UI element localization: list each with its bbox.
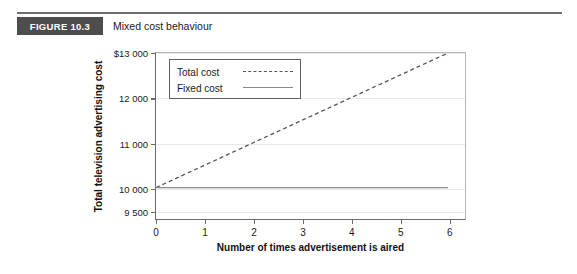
chart: Total television advertising cost 9 5001… (0, 38, 577, 274)
y-axis-tick-label: 10 000 (119, 184, 148, 195)
y-axis-title-text: Total television advertising cost (94, 60, 105, 212)
x-axis-tick (450, 219, 451, 224)
y-axis-title: Total television advertising cost (92, 52, 106, 220)
y-axis-tick-label: $13 000 (114, 48, 148, 59)
x-axis-tick (205, 219, 206, 224)
x-axis-tick-label: 0 (153, 227, 159, 238)
x-axis-tick-label: 1 (202, 227, 208, 238)
legend-item-label: Fixed cost (177, 83, 243, 94)
plot-area: 9 50010 00011 00012 000$13 000 0123456 T… (155, 52, 466, 220)
legend-item: Total cost (177, 64, 293, 80)
x-axis-tick (352, 219, 353, 224)
y-axis-tick-label: 12 000 (119, 93, 148, 104)
y-axis-tick-label: 11 000 (120, 138, 148, 149)
x-axis-tick-label: 6 (447, 227, 453, 238)
chart-legend: Total costFixed cost (169, 59, 301, 99)
x-axis-title: Number of times advertisement is aired (155, 242, 466, 253)
x-axis-tick (401, 219, 402, 224)
legend-item: Fixed cost (177, 80, 293, 96)
x-axis-tick-label: 4 (349, 227, 355, 238)
legend-item-label: Total cost (177, 67, 243, 78)
x-axis-tick (303, 219, 304, 224)
y-axis-tick-label: 9 500 (124, 206, 148, 217)
x-axis-tick-label: 2 (251, 227, 257, 238)
x-axis-tick (156, 219, 157, 224)
figure-header: FIGURE 10.3 Mixed cost behaviour (17, 12, 562, 38)
legend-swatch-dashed (243, 71, 293, 73)
x-axis-tick-label: 5 (398, 227, 404, 238)
legend-swatch-solid (243, 87, 293, 89)
figure-caption: Mixed cost behaviour (113, 17, 212, 35)
x-axis-tick (254, 219, 255, 224)
figure-number-badge: FIGURE 10.3 (17, 17, 103, 35)
header-divider (17, 12, 562, 14)
x-axis-tick-label: 3 (300, 227, 306, 238)
